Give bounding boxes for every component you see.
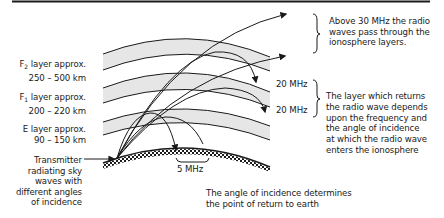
f2-layer-label: F2 layer approx. 250 – 500 km [6, 59, 86, 83]
f2-layer-name: F2 [19, 59, 28, 69]
note-layer-return: The layer which returns the radio wave d… [326, 91, 428, 156]
e-layer-band [103, 109, 270, 140]
transmitter-label: Transmitter radiating sky waves with dif… [0, 155, 82, 208]
brace-above-30mhz [313, 14, 320, 53]
ray-f2-return [117, 52, 256, 158]
freq-label-upper-20mhz: 20 MHz [276, 79, 307, 90]
ray-above-30mhz-2 [117, 56, 285, 158]
ground-range-bracket [176, 158, 209, 162]
note-above-30mhz: Above 30 MHz the radio waves pass throug… [329, 16, 430, 48]
e-layer-name: E [23, 124, 28, 134]
brace-20mhz [313, 80, 320, 117]
e-layer-label: E layer approx. 90 – 150 km [6, 124, 86, 145]
note-angle-of-incidence: The angle of incidence determines the po… [206, 188, 352, 209]
f1-layer-name: F1 [19, 92, 28, 102]
f1-layer-label: F1 layer approx. 200 – 220 km [6, 92, 86, 116]
freq-label-lower-20mhz: 20 MHz [276, 105, 307, 116]
freq-label-5mhz: 5 MHz [177, 164, 203, 175]
f1-layer-band [103, 73, 270, 107]
